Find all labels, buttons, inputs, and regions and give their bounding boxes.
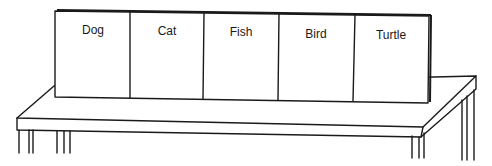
- panel-label-fish: Fish: [230, 25, 253, 39]
- panel-label-cat: Cat: [158, 24, 177, 38]
- panel-label-bird: Bird: [305, 27, 326, 41]
- panel-divider: [278, 14, 279, 100]
- panel-label-dog: Dog: [82, 23, 104, 37]
- sign-board: Dog Cat Fish Bird Turtle: [55, 10, 431, 103]
- pet-board-on-table-illustration: Dog Cat Fish Bird Turtle: [0, 0, 492, 166]
- panel-label-turtle: Turtle: [376, 28, 407, 42]
- panel-divider: [203, 13, 204, 99]
- board-side-edge: [430, 15, 431, 102]
